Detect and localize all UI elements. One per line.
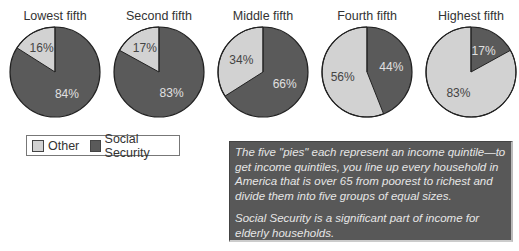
svg-text:83%: 83% xyxy=(160,86,184,100)
other-swatch-icon xyxy=(32,140,44,152)
svg-text:34%: 34% xyxy=(229,53,253,67)
svg-text:44%: 44% xyxy=(379,60,403,74)
explanation-text: The five "pies" each represent an income… xyxy=(235,145,507,203)
legend-label-social-security: Social Security xyxy=(105,132,173,160)
pie-charts: 16%84%17%83%34%66%56%44%83%17% xyxy=(0,0,519,130)
svg-text:17%: 17% xyxy=(472,44,496,58)
legend-item-social-security: Social Security xyxy=(85,132,173,160)
svg-text:66%: 66% xyxy=(273,77,297,91)
svg-text:17%: 17% xyxy=(133,41,157,55)
svg-text:83%: 83% xyxy=(446,86,470,100)
explanation-box: The five "pies" each represent an income… xyxy=(229,141,513,242)
svg-text:16%: 16% xyxy=(30,41,54,55)
legend-item-other: Other xyxy=(27,139,79,153)
svg-text:56%: 56% xyxy=(331,70,355,84)
conclusion-text: Social Security is a significant part of… xyxy=(235,211,507,240)
svg-text:84%: 84% xyxy=(55,87,79,101)
legend: Other Social Security xyxy=(26,135,180,156)
social-security-swatch-icon xyxy=(90,140,100,152)
legend-label-other: Other xyxy=(48,139,79,153)
